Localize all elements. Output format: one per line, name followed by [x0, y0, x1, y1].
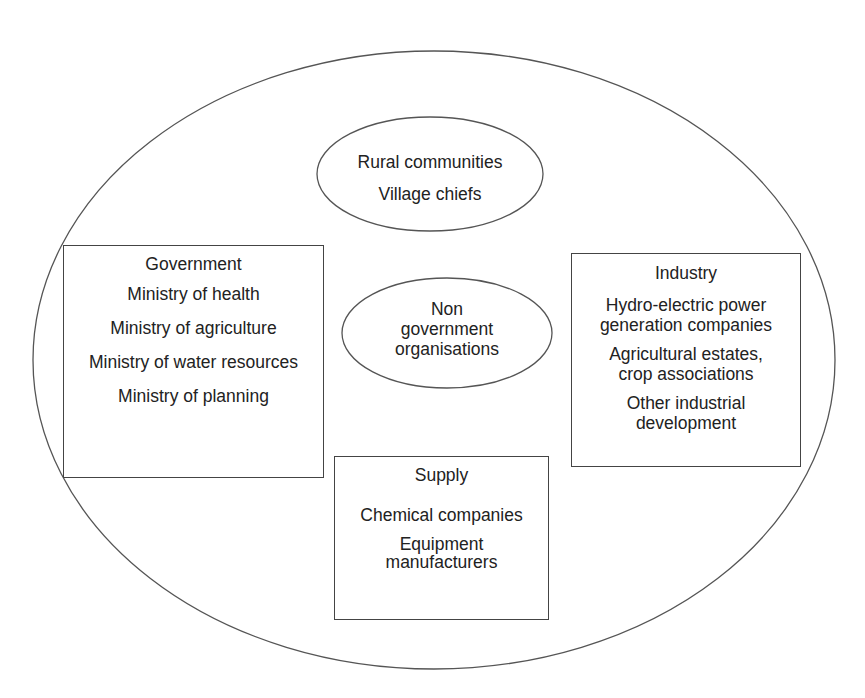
supply-item-line: Chemical companies — [360, 505, 522, 525]
industry-item: Other industrial development — [627, 393, 746, 433]
industry-item-line: crop associations — [609, 364, 763, 384]
ngo-line: Non — [431, 299, 463, 319]
ngo-line: government — [401, 319, 493, 339]
industry-title: Industry — [655, 263, 717, 283]
industry-item-line: Hydro-electric power — [600, 295, 772, 315]
government-item: Ministry of health — [127, 284, 259, 305]
government-item: Ministry of planning — [118, 386, 269, 407]
ngo-node: Non government organisations — [342, 299, 552, 359]
industry-item-line: Other industrial — [627, 393, 746, 413]
ngo-line: organisations — [395, 339, 499, 359]
government-box: Government Ministry of health Ministry o… — [63, 245, 324, 478]
industry-box: Industry Hydro-electric power generation… — [571, 253, 801, 467]
industry-item: Hydro-electric power generation companie… — [600, 295, 772, 335]
industry-item-line: development — [627, 413, 746, 433]
government-item: Ministry of water resources — [89, 352, 298, 373]
supply-title: Supply — [415, 465, 469, 485]
rural-item: Village chiefs — [379, 184, 482, 205]
supply-item-line: manufacturers — [386, 552, 498, 572]
government-item: Ministry of agriculture — [110, 318, 276, 339]
industry-item-line: Agricultural estates, — [609, 344, 763, 364]
rural-item: Rural communities — [358, 152, 503, 173]
industry-item-line: generation companies — [600, 315, 772, 335]
supply-item: Chemical companies — [360, 505, 522, 525]
supply-box: Supply Chemical companies Equipment manu… — [334, 456, 549, 620]
government-title: Government — [145, 254, 241, 275]
industry-item: Agricultural estates, crop associations — [609, 344, 763, 384]
supply-item-line: Equipment — [386, 534, 498, 554]
rural-node: Rural communities Village chiefs — [317, 152, 543, 214]
supply-item: Equipment manufacturers — [386, 534, 498, 572]
